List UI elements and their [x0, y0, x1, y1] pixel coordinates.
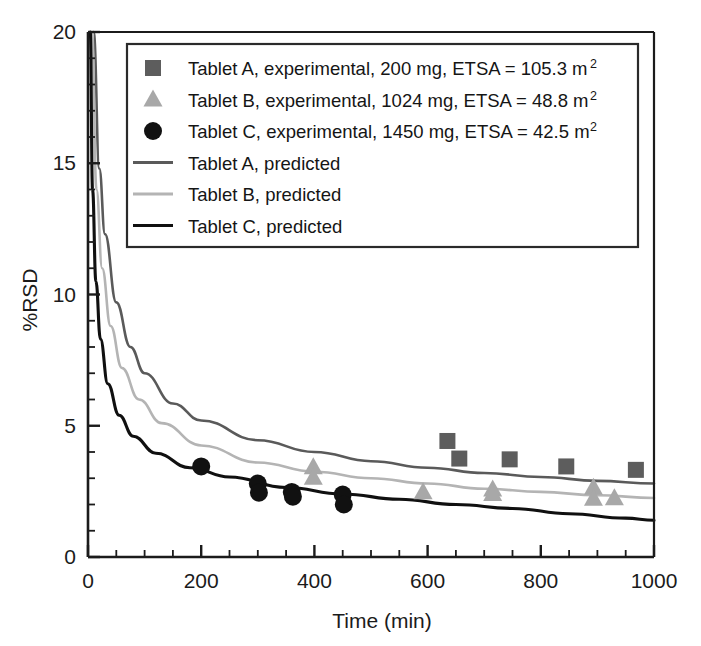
marker-circle — [335, 496, 353, 514]
marker-square — [439, 433, 455, 449]
y-axis-tick-labels: 05101520 — [53, 20, 76, 568]
x-tick-label: 1000 — [631, 569, 678, 592]
x-tick-label: 0 — [82, 569, 94, 592]
y-tick-label: 0 — [64, 545, 76, 568]
marker-square — [628, 462, 644, 478]
legend-item-superscript: 2 — [590, 89, 597, 103]
y-tick-label: 10 — [53, 283, 76, 306]
legend-item-label: Tablet C, predicted — [188, 216, 342, 237]
y-tick-label: 15 — [53, 151, 76, 174]
x-axis-title: Time (min) — [332, 609, 432, 632]
rsd-vs-time-chart: 05101520 02004006008001000 Time (min) %R… — [0, 0, 701, 646]
legend-item-label: Tablet A, experimental, 200 mg, ETSA = 1… — [188, 58, 588, 79]
x-tick-label: 600 — [410, 569, 445, 592]
legend-item-label: Tablet A, predicted — [188, 153, 340, 174]
marker-square — [451, 451, 467, 467]
marker-square — [502, 451, 518, 467]
legend-item-label: Tablet B, experimental, 1024 mg, ETSA = … — [188, 90, 589, 111]
x-axis-tick-labels: 02004006008001000 — [82, 569, 677, 592]
y-axis-title: %RSD — [18, 268, 41, 331]
marker-square — [558, 458, 574, 474]
x-tick-label: 800 — [523, 569, 558, 592]
marker-circle — [250, 484, 268, 502]
legend-item-superscript: 2 — [590, 57, 597, 71]
legend-item-label: Tablet B, predicted — [188, 184, 341, 205]
y-tick-label: 20 — [53, 20, 76, 43]
chart-page: 05101520 02004006008001000 Time (min) %R… — [0, 0, 701, 646]
legend: Tablet A, experimental, 200 mg, ETSA = 1… — [127, 44, 638, 247]
legend-marker-square — [145, 60, 161, 76]
legend-marker-circle — [144, 122, 162, 140]
marker-circle — [192, 457, 210, 475]
legend-item-label: Tablet C, experimental, 1450 mg, ETSA = … — [188, 121, 590, 142]
marker-circle — [284, 488, 302, 506]
y-tick-label: 5 — [64, 414, 76, 437]
x-tick-label: 200 — [184, 569, 219, 592]
x-tick-label: 400 — [297, 569, 332, 592]
legend-item-superscript: 2 — [590, 120, 597, 134]
